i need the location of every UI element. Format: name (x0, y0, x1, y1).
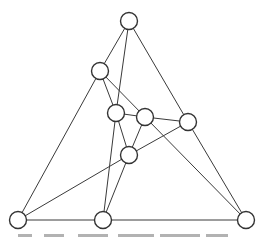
edge-n4-n8 (188, 122, 246, 220)
edge-n0-n4 (129, 21, 188, 122)
figure-caption-truncated (0, 231, 257, 237)
caption-word-fragment (78, 234, 108, 237)
edge-n4-n5 (129, 122, 188, 155)
caption-word-fragment (118, 234, 154, 237)
caption-word-fragment (44, 234, 64, 237)
node-n0 (121, 13, 138, 30)
node-n4 (180, 114, 197, 131)
node-n7 (95, 212, 112, 229)
graph-edges (18, 21, 246, 220)
node-n8 (238, 212, 255, 229)
edge-n5-n6 (18, 155, 129, 220)
edge-n1-n6 (18, 71, 100, 220)
node-n1 (92, 63, 109, 80)
node-n2 (108, 105, 125, 122)
node-n3 (137, 109, 154, 126)
caption-word-fragment (160, 234, 200, 237)
graph-diagram (0, 0, 257, 237)
graph-nodes (10, 13, 255, 229)
node-n6 (10, 212, 27, 229)
node-n5 (121, 147, 138, 164)
caption-word-fragment (18, 234, 32, 237)
edge-n3-n8 (145, 117, 246, 220)
caption-word-fragment (206, 234, 228, 237)
